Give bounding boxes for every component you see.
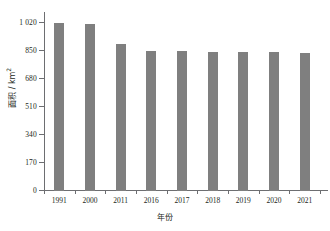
x-axis-title: 年份 bbox=[0, 211, 330, 222]
x-tick-label: 2017 bbox=[175, 196, 190, 205]
x-tick-label: 1991 bbox=[52, 196, 67, 205]
y-axis-title-text: 面积 / km bbox=[8, 72, 17, 108]
x-tick-mark bbox=[75, 191, 76, 194]
x-tick-label: 2016 bbox=[144, 196, 159, 205]
y-tick-label: 340 bbox=[25, 130, 37, 139]
x-tick-label: 2020 bbox=[267, 196, 282, 205]
bar-chart: 01703405106808501 020 199120002011201620… bbox=[0, 0, 330, 231]
x-tick-mark bbox=[197, 191, 198, 194]
y-axis-title-exponent: 2 bbox=[5, 68, 12, 72]
y-axis-title: 面积 / km2 bbox=[5, 52, 17, 124]
x-tick-label: 2011 bbox=[113, 196, 128, 205]
bar[interactable] bbox=[54, 23, 64, 191]
bar[interactable] bbox=[85, 24, 95, 191]
x-tick-mark bbox=[167, 191, 168, 194]
y-tick-label: 1 020 bbox=[19, 18, 37, 27]
x-tick-label: 2018 bbox=[205, 196, 220, 205]
y-tick-label: 0 bbox=[33, 186, 37, 195]
bar[interactable] bbox=[269, 52, 279, 191]
y-tick-label: 680 bbox=[25, 74, 37, 83]
x-tick-label: 2019 bbox=[236, 196, 251, 205]
bar[interactable] bbox=[238, 52, 248, 191]
x-tick-mark bbox=[320, 191, 321, 194]
bar[interactable] bbox=[177, 51, 187, 191]
x-tick-mark bbox=[105, 191, 106, 194]
x-tick-mark bbox=[136, 191, 137, 194]
x-tick-mark bbox=[228, 191, 229, 194]
x-tick-label: 2000 bbox=[83, 196, 98, 205]
bar[interactable] bbox=[208, 52, 218, 191]
y-tick-label: 170 bbox=[25, 158, 37, 167]
bar[interactable] bbox=[146, 51, 156, 191]
x-tick-label: 2021 bbox=[297, 196, 312, 205]
plot-area bbox=[44, 14, 320, 191]
x-tick-mark bbox=[289, 191, 290, 194]
bar[interactable] bbox=[116, 44, 126, 191]
x-tick-mark bbox=[44, 191, 45, 194]
y-tick-label: 510 bbox=[25, 102, 37, 111]
y-tick-label: 850 bbox=[25, 46, 37, 55]
bar[interactable] bbox=[300, 53, 310, 191]
x-tick-mark bbox=[259, 191, 260, 194]
